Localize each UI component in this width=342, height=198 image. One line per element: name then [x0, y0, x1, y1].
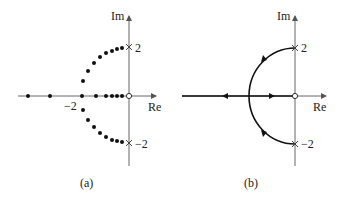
im-label-b: Im: [277, 9, 291, 23]
upper-branch-dots-a: [81, 46, 124, 83]
caption-a: (a): [80, 176, 93, 190]
root-locus-figure: Im Re 2 −2 −2: [0, 0, 342, 198]
re-label-b: Re: [313, 100, 326, 114]
caption-b: (b): [244, 176, 258, 190]
im-label-a: Im: [111, 9, 125, 23]
zero-icon: [126, 93, 131, 98]
tick-pos-a: 2: [135, 41, 141, 55]
tick-neg-b: −2: [301, 137, 314, 151]
arrow-right-icon: [269, 93, 275, 99]
tick-pos-b: 2: [301, 41, 307, 55]
zero-icon: [292, 93, 297, 98]
panel-a: Im Re 2 −2 −2: [18, 9, 161, 190]
re-label-a: Re: [148, 100, 161, 114]
arrow-left-icon: [222, 93, 228, 99]
lower-branch-dots-a: [81, 108, 124, 144]
tick-re-a: −2: [64, 99, 77, 113]
panel-b: Im Re 2 −2 (b): [182, 9, 326, 190]
tick-neg-a: −2: [135, 137, 148, 151]
